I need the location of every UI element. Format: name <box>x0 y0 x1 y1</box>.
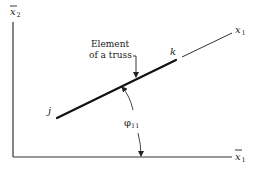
truss-element <box>57 60 176 118</box>
axis-label-x: x <box>235 151 241 162</box>
caption-leader-arrow <box>133 56 136 77</box>
node-label-j: j <box>46 105 51 116</box>
caption-line-2: of a truss <box>89 50 132 60</box>
angle-arc-lower <box>138 133 141 156</box>
element-caption: Element of a truss <box>89 39 132 60</box>
horizontal-axis-label: x 1 <box>235 150 246 164</box>
local-axis-line <box>182 33 232 57</box>
axis-label-x: x <box>10 6 16 17</box>
angle-label: φ 11 <box>124 117 139 130</box>
axis-label-subscript: 2 <box>17 11 21 19</box>
angle-symbol: φ <box>124 117 131 128</box>
axis-label-subscript: 1 <box>242 156 246 164</box>
caption-line-1: Element <box>91 39 129 49</box>
angle-subscript: 11 <box>131 122 139 130</box>
axis-label-subscript: 1 <box>242 29 246 37</box>
angle-arc-upper <box>122 87 133 110</box>
local-axis-label: x 1 <box>235 24 246 37</box>
node-label-k: k <box>170 46 176 57</box>
vertical-axis-label: x 2 <box>10 6 21 19</box>
axis-label-x: x <box>235 24 241 35</box>
truss-diagram: x 2 x 1 x 1 j k Element of a truss φ 11 <box>0 0 253 171</box>
